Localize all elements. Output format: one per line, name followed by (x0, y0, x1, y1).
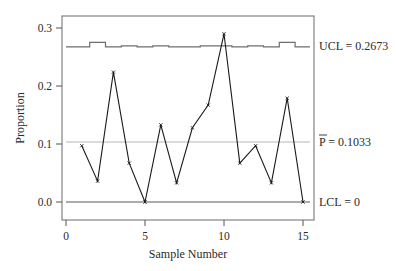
y-axis-label: Proportion (13, 92, 27, 143)
x-axis: 0 5 10 15 (63, 220, 309, 242)
center-value: = 0.1033 (325, 135, 371, 149)
data-markers (80, 32, 304, 203)
ucl-line (66, 42, 310, 47)
x-tick-15: 15 (297, 230, 309, 242)
x-tick-0: 0 (63, 230, 69, 242)
y-tick-0.0: 0.0 (38, 196, 53, 208)
center-label: P = 0.1033 (319, 135, 371, 149)
lcl-label: LCL = 0 (319, 195, 360, 209)
y-tick-0.1: 0.1 (38, 138, 53, 150)
x-axis-label: Sample Number (149, 247, 227, 261)
y-axis: 0.3 0.2 0.1 0.0 (38, 22, 62, 208)
y-tick-0.3: 0.3 (38, 22, 53, 34)
svg-text:P = 0.1033: P = 0.1033 (319, 135, 371, 149)
p-control-chart: 0.3 0.2 0.1 0.0 0 5 10 15 Sample Number … (0, 0, 396, 271)
x-tick-10: 10 (218, 230, 230, 242)
x-tick-5: 5 (142, 230, 148, 242)
ucl-label: UCL = 0.2673 (319, 39, 388, 53)
proportion-line (82, 34, 303, 202)
y-tick-0.2: 0.2 (38, 80, 53, 92)
